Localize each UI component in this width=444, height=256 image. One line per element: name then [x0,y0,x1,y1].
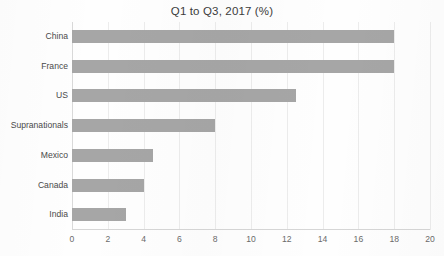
bar [72,179,144,192]
category-label-france: France [2,60,68,73]
bar-chart-figure: Q1 to Q3, 2017 (%) ChinaFranceUSSupranat… [0,0,444,256]
x-tick-label-4: 4 [129,234,159,244]
x-tick-label-8: 8 [200,234,230,244]
bar-row [72,141,430,171]
bar [72,60,394,73]
category-label-us: US [2,89,68,102]
x-tick-label-2: 2 [93,234,123,244]
bar [72,208,126,221]
bar [72,119,215,132]
bar-row [72,22,430,52]
x-tick-label-0: 0 [57,234,87,244]
category-label-india: India [2,208,68,221]
x-tick-label-12: 12 [272,234,302,244]
bar-row [72,52,430,82]
bar-row [72,200,430,230]
bar-row [72,171,430,201]
category-label-china: China [2,30,68,43]
category-label-canada: Canada [2,179,68,192]
x-tick-label-18: 18 [379,234,409,244]
x-tick-label-14: 14 [308,234,338,244]
x-tick-label-16: 16 [343,234,373,244]
chart-title: Q1 to Q3, 2017 (%) [0,5,444,17]
bar-row [72,81,430,111]
bar [72,30,394,43]
category-label-supranationals: Supranationals [2,119,68,132]
x-axis-baseline [72,229,430,230]
category-label-mexico: Mexico [2,149,68,162]
bar [72,89,296,102]
x-tick-label-6: 6 [164,234,194,244]
bar-row [72,111,430,141]
x-tick-label-10: 10 [236,234,266,244]
plot-area [72,22,430,230]
gridline-20 [430,22,431,230]
x-tick-label-20: 20 [415,234,444,244]
bar [72,149,153,162]
